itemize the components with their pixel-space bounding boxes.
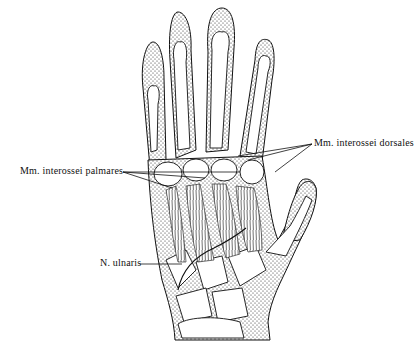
label-interossei-palmares: Mm. interossei palmares <box>20 165 123 176</box>
label-n-ulnaris: N. ulnaris <box>100 257 141 268</box>
label-interossei-dorsales: Mm. interossei dorsales <box>314 137 414 148</box>
